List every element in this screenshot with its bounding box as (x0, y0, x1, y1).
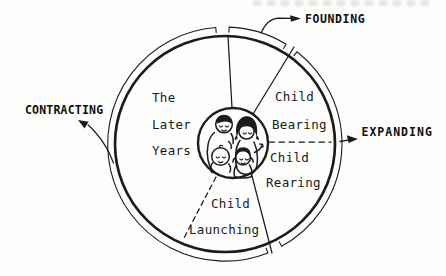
baby-figure (211, 145, 231, 172)
later-years-label-line-1: The (152, 90, 175, 105)
founding-label: FOUNDING (305, 12, 365, 26)
sector-labels: The Later Years Child Bearing Child Rear… (152, 89, 327, 237)
founding-arrowhead-icon (290, 15, 301, 22)
divider-top (228, 36, 232, 108)
child-bearing-label-line-2: Bearing (272, 117, 327, 132)
founding-arrow (261, 18, 292, 33)
expanding-label: EXPANDING (362, 125, 433, 139)
contracting-label: CONTRACTING (25, 103, 103, 117)
child-launching-label-line-2: Launching (189, 222, 259, 237)
family-icon (207, 115, 263, 178)
expanding-arrow (340, 140, 349, 142)
child-bearing-label-line-1: Child (275, 89, 314, 104)
wheel-circle (115, 36, 335, 252)
diagram-svg: The Later Years Child Bearing Child Rear… (0, 0, 446, 276)
sector-dividers (184, 36, 331, 253)
later-years-label-line-2: Later (152, 117, 191, 132)
child-launching-label-line-1: Child (211, 196, 250, 211)
family-life-cycle-diagram: The Later Years Child Bearing Child Rear… (0, 0, 446, 276)
contracting-arrow (88, 125, 114, 163)
later-years-label-line-3: Years (152, 143, 191, 158)
child-rearing-label-line-2: Rearing (266, 175, 321, 190)
child-rearing-label-line-1: Child (270, 150, 309, 165)
expanding-arrowhead-icon (347, 135, 358, 143)
contracting-arrowhead-icon (78, 120, 89, 128)
